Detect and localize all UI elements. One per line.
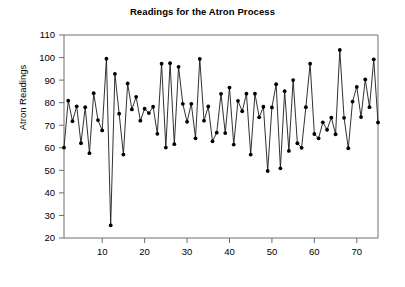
- chart-container: Readings for the Atron Process Atron Rea…: [0, 0, 405, 287]
- data-point: [262, 105, 266, 109]
- data-point: [266, 169, 270, 173]
- data-point: [351, 100, 355, 104]
- data-point: [138, 119, 142, 123]
- data-point: [270, 106, 274, 110]
- data-point: [147, 111, 151, 115]
- data-point: [249, 153, 253, 157]
- x-tick-marks: [102, 238, 357, 243]
- data-point: [300, 146, 304, 150]
- data-point: [219, 92, 223, 96]
- data-point: [295, 141, 299, 145]
- data-point: [283, 89, 287, 93]
- data-point: [198, 57, 202, 61]
- data-point: [317, 136, 321, 140]
- x-tick-label: 10: [97, 246, 108, 257]
- series-line: [64, 50, 378, 225]
- data-point: [185, 120, 189, 124]
- data-point: [181, 102, 185, 106]
- data-point: [96, 118, 100, 122]
- data-point: [143, 107, 147, 111]
- y-tick-label: 100: [39, 52, 55, 63]
- data-point: [71, 119, 75, 123]
- data-point: [312, 132, 316, 136]
- data-point: [177, 65, 181, 69]
- y-tick-label: 70: [44, 120, 55, 131]
- data-point: [168, 61, 172, 65]
- plot-area: 2030405060708090100110 10203040506070: [0, 0, 405, 287]
- data-point: [308, 62, 312, 66]
- data-point: [274, 82, 278, 86]
- data-point: [202, 119, 206, 123]
- data-point: [291, 78, 295, 82]
- data-point: [194, 136, 198, 140]
- data-point: [334, 132, 338, 136]
- y-tick-label: 80: [44, 97, 55, 108]
- data-point: [215, 131, 219, 135]
- data-point: [376, 121, 380, 125]
- x-tick-label: 30: [182, 246, 193, 257]
- data-point: [164, 146, 168, 150]
- data-point: [62, 146, 66, 150]
- data-point: [321, 120, 325, 124]
- y-tick-label: 20: [44, 232, 55, 243]
- y-tick-label: 60: [44, 142, 55, 153]
- data-point: [211, 139, 215, 143]
- x-tick-label: 70: [351, 246, 362, 257]
- data-point: [66, 99, 70, 103]
- data-point: [240, 109, 244, 113]
- y-tick-label: 30: [44, 210, 55, 221]
- data-point: [151, 105, 155, 109]
- data-point: [253, 92, 257, 96]
- data-point: [363, 78, 367, 82]
- data-point: [338, 48, 342, 52]
- data-point: [355, 85, 359, 89]
- y-tick-marks: [59, 35, 64, 238]
- data-point: [228, 86, 232, 90]
- y-tick-label: 50: [44, 165, 55, 176]
- data-point: [92, 91, 96, 95]
- data-point: [83, 105, 87, 109]
- data-point: [160, 62, 164, 66]
- data-point: [105, 57, 109, 61]
- x-tick-labels: 10203040506070: [97, 246, 362, 257]
- data-point: [304, 105, 308, 109]
- data-point: [134, 95, 138, 99]
- data-point: [368, 105, 372, 109]
- data-point: [287, 149, 291, 153]
- x-tick-label: 40: [224, 246, 235, 257]
- data-point: [109, 223, 113, 227]
- data-point: [279, 166, 283, 170]
- data-point: [346, 146, 350, 150]
- y-tick-label: 110: [40, 29, 55, 40]
- data-point: [155, 132, 159, 136]
- data-point: [126, 82, 130, 86]
- data-point: [130, 108, 134, 112]
- x-tick-label: 20: [139, 246, 150, 257]
- data-point: [75, 104, 79, 108]
- data-point: [88, 151, 92, 155]
- data-point: [206, 105, 210, 109]
- y-tick-label: 40: [44, 187, 55, 198]
- data-point: [372, 57, 376, 61]
- y-tick-labels: 2030405060708090100110: [39, 29, 55, 243]
- data-point: [329, 116, 333, 120]
- data-point: [359, 115, 363, 119]
- data-point: [223, 131, 227, 135]
- data-point: [100, 129, 104, 133]
- data-point: [325, 128, 329, 132]
- data-point: [79, 141, 83, 145]
- data-point: [117, 112, 121, 116]
- x-tick-label: 50: [267, 246, 278, 257]
- y-tick-label: 90: [44, 75, 55, 86]
- x-tick-label: 60: [309, 246, 320, 257]
- data-point: [122, 153, 126, 157]
- data-point: [257, 115, 261, 119]
- data-point: [232, 143, 236, 147]
- data-point: [189, 102, 193, 106]
- data-point: [342, 116, 346, 120]
- data-point: [245, 92, 249, 96]
- data-point: [236, 99, 240, 103]
- data-point: [113, 72, 117, 76]
- data-point: [172, 142, 176, 146]
